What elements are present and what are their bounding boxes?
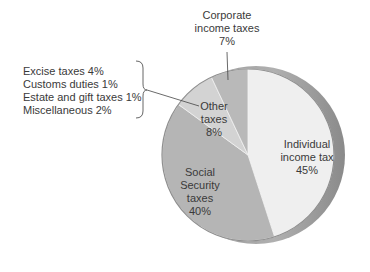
pie-chart: Individualincome tax45%SocialSecuritytax…: [0, 0, 370, 272]
breakdown-item: Excise taxes 4%: [23, 65, 104, 77]
breakdown-item: Customs duties 1%: [23, 78, 118, 90]
breakdown-item: Estate and gift taxes 1%: [23, 91, 142, 103]
slice-label-corporate: Corporateincome taxes7%: [195, 9, 260, 47]
breakdown-item: Miscellaneous 2%: [23, 104, 112, 116]
other-breakdown-list: Excise taxes 4%Customs duties 1%Estate a…: [23, 65, 142, 116]
other-breakdown-brace: [136, 61, 147, 118]
